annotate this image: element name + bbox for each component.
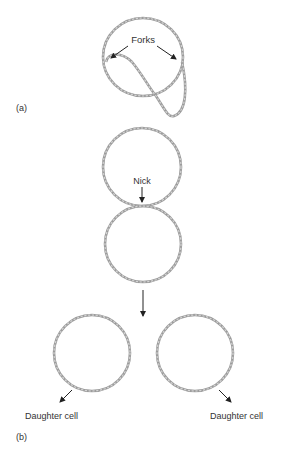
- right-fork-arrow: [157, 46, 176, 59]
- right-daughter-arrow: [219, 390, 231, 402]
- panel-a: Forks (a): [16, 18, 185, 116]
- right-daughter-label: Daughter cell: [210, 411, 263, 421]
- right-daughter-circle: [157, 315, 233, 391]
- panel-b: Nick Daughter cell Daughter cell (b): [16, 128, 263, 442]
- replicated-loop: [106, 55, 185, 117]
- left-daughter-arrow: [60, 390, 72, 402]
- panel-b-label: (b): [16, 432, 27, 442]
- forks-label: Forks: [131, 34, 155, 45]
- left-daughter-circle: [54, 315, 130, 391]
- panel-a-label: (a): [16, 103, 27, 113]
- parental-circle: [103, 18, 183, 96]
- diagram-canvas: Forks (a) Nick Daughter cell Daughter ce…: [0, 0, 289, 453]
- left-daughter-label: Daughter cell: [25, 411, 78, 421]
- lower-circle: [105, 206, 181, 282]
- nick-label: Nick: [133, 176, 151, 186]
